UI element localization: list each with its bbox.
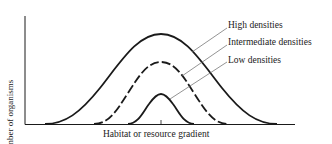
- leader-intermediate: [182, 45, 227, 76]
- curve-high-densities: [45, 34, 277, 124]
- label-high-densities: High densities: [228, 21, 283, 31]
- x-axis-label: Habitat or resource gradient: [103, 130, 209, 140]
- curve-low-densities: [128, 94, 194, 124]
- curve-intermediate-densities: [94, 62, 228, 124]
- y-axis-label: Number of organisms: [6, 68, 15, 144]
- label-low-densities: Low densities: [228, 56, 281, 66]
- leader-low: [170, 62, 227, 99]
- label-intermediate-densities: Intermediate densities: [228, 38, 312, 48]
